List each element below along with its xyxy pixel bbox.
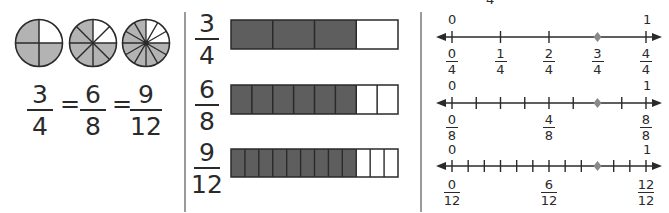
circle-eighths <box>69 20 116 67</box>
fraction-bar <box>195 38 219 40</box>
numerator: 9 <box>199 140 215 165</box>
fraction-bar <box>130 109 162 111</box>
denominator: 4 <box>496 63 504 76</box>
numerator: 6 <box>85 82 101 107</box>
bar-twelfths <box>231 149 398 177</box>
denominator: 8 <box>545 129 553 142</box>
equals-sign: = <box>60 92 80 116</box>
line1-start-label: 0 <box>448 13 456 26</box>
line3-start-label: 0 <box>448 143 456 156</box>
denominator: 8 <box>199 109 215 134</box>
fraction-circles <box>0 0 180 80</box>
numerator: 1 <box>496 47 504 60</box>
number-line-twelfths <box>436 160 662 172</box>
number-line-fourths <box>436 31 662 43</box>
denominator: 12 <box>191 172 223 197</box>
numerator: 4 <box>545 113 553 126</box>
equation-fraction-3: 9 12 <box>130 82 162 139</box>
point-marker <box>594 161 602 171</box>
numerator: 3 <box>32 82 48 107</box>
numerator: 12 <box>638 178 655 191</box>
line3-tick-label: 6 12 <box>539 178 559 207</box>
line1-tick-label: 0 4 <box>444 47 460 76</box>
numerator: 4 <box>642 47 650 60</box>
section-divider-left <box>184 12 186 212</box>
denominator: 8 <box>642 129 650 142</box>
denominator: 4 <box>593 63 601 76</box>
point-marker <box>594 98 602 108</box>
section-divider-right <box>420 12 422 212</box>
denominator: 12 <box>444 194 461 207</box>
denominator: 12 <box>541 194 558 207</box>
line1-tick-label: 2 4 <box>541 47 557 76</box>
denominator: 4 <box>199 43 215 68</box>
fraction-bar <box>80 109 106 111</box>
numerator: 6 <box>199 77 215 102</box>
numerator: 9 <box>138 82 154 107</box>
numerator: 8 <box>642 113 650 126</box>
fraction-bar <box>27 109 53 111</box>
bar-fourths <box>231 20 398 49</box>
numerator: 3 <box>593 47 601 60</box>
equation-fraction-1: 3 4 <box>27 82 53 139</box>
numerator: 0 <box>448 47 456 60</box>
line2-tick-label: 0 8 <box>444 113 460 142</box>
line2-tick-label: 4 8 <box>541 113 557 142</box>
bar-label-fourths: 3 4 <box>194 11 220 68</box>
point-marker <box>594 32 602 42</box>
circle-twelfths <box>122 20 169 67</box>
fraction-bar <box>195 104 219 106</box>
line1-tick-label: 4 4 <box>638 47 654 76</box>
numerator: 0 <box>448 178 456 191</box>
denominator: 4 <box>642 63 650 76</box>
clipped-top-label: 4 <box>486 0 494 6</box>
denominator: 12 <box>130 114 162 139</box>
fraction-bar <box>194 167 220 169</box>
line3-end-label: 1 <box>643 143 651 156</box>
denominator: 4 <box>448 63 456 76</box>
numerator: 3 <box>199 11 215 36</box>
denominator: 8 <box>85 114 101 139</box>
line3-tick-label: 0 12 <box>442 178 462 207</box>
denominator: 8 <box>448 129 456 142</box>
bar-label-eighths: 6 8 <box>194 77 220 134</box>
number-line-eighths <box>436 97 662 109</box>
circle-fourths <box>15 20 62 67</box>
equation-fraction-2: 6 8 <box>80 82 106 139</box>
line1-tick-label: 3 4 <box>590 47 606 76</box>
line1-end-label: 1 <box>643 13 651 26</box>
denominator: 4 <box>32 114 48 139</box>
line2-start-label: 0 <box>448 79 456 92</box>
numerator: 0 <box>448 113 456 126</box>
denominator: 4 <box>545 63 553 76</box>
numerator: 6 <box>545 178 553 191</box>
line2-tick-label: 8 8 <box>638 113 654 142</box>
line1-tick-label: 1 4 <box>493 47 509 76</box>
denominator: 12 <box>638 194 655 207</box>
bar-eighths <box>231 85 398 114</box>
line3-tick-label: 12 12 <box>636 178 656 207</box>
numerator: 2 <box>545 47 553 60</box>
line2-end-label: 1 <box>643 79 651 92</box>
bar-label-twelfths: 9 12 <box>192 140 222 197</box>
